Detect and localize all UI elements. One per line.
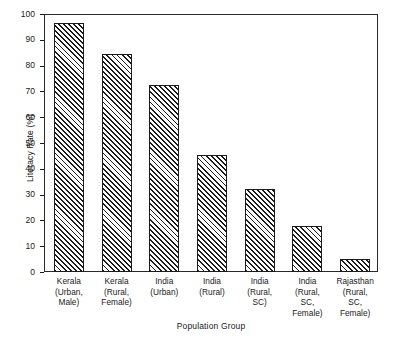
y-axis-tick-label: 80: [26, 61, 35, 70]
bar: [54, 23, 84, 272]
bar: [197, 155, 227, 272]
x-axis-tick-label: Rajasthan(Rural,SC,Female): [327, 276, 383, 318]
y-axis-tick-label: 50: [26, 139, 35, 148]
x-axis-tick-label-line: SC,: [327, 297, 383, 308]
y-axis-tick-label: 0: [30, 268, 35, 277]
y-axis-tick-label: 20: [26, 216, 35, 225]
x-axis-tick-label-line: Female): [327, 308, 383, 319]
bar: [340, 259, 370, 272]
bar: [292, 226, 322, 272]
literacy-rate-bar-chart: Literacy Rate (%) 1009080706050403020100…: [0, 0, 407, 338]
y-axis-tick-label: 30: [26, 190, 35, 199]
x-axis-tick-label-line: (Rural,: [327, 287, 383, 298]
y-axis-tick-label: 40: [26, 164, 35, 173]
x-axis-title: Population Group: [44, 321, 378, 331]
y-axis-tick-label: 10: [26, 242, 35, 251]
y-axis-tick-label: 90: [26, 35, 35, 44]
y-axis-tick-label: 60: [26, 113, 35, 122]
bar: [149, 85, 179, 272]
y-axis-tick-label: 100: [21, 10, 35, 19]
y-axis-tick-labels: 1009080706050403020100: [0, 0, 44, 338]
bars-layer: [44, 14, 378, 272]
bar: [245, 189, 275, 272]
x-axis-tick-label-line: Female): [89, 297, 145, 308]
x-axis-tick-label-line: Rajasthan: [327, 276, 383, 287]
x-axis-tick-labels: Kerala(Urban,Male)Kerala(Rural,Female)In…: [44, 276, 378, 322]
y-axis-tick-mark: [40, 272, 44, 273]
bar: [102, 54, 132, 272]
y-axis-tick-label: 70: [26, 87, 35, 96]
